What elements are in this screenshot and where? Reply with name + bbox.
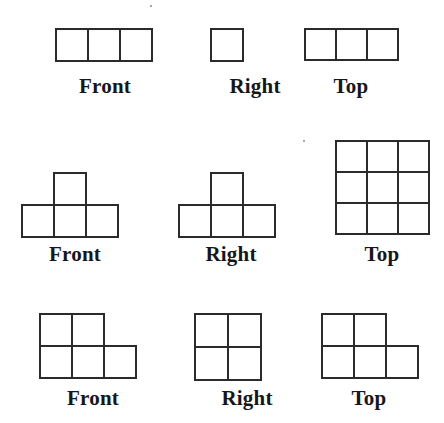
grid-cell [53,204,87,238]
grid-cell [21,204,55,238]
grid-cell [366,28,399,61]
grid-cell [103,345,137,379]
grid-cell [210,172,244,206]
view-label-right: Right [184,386,310,411]
grid-cell [194,346,229,381]
view-label-front: Front [40,74,170,99]
grid-cell [335,140,368,173]
grid-cell [119,28,153,62]
orthographic-views-figure: FrontRightTopFrontRightTopFrontRightTop [0,0,444,423]
grid-cell [366,171,399,204]
grid-cell [227,346,262,381]
scan-speck [150,5,152,7]
view-label-top: Top [312,386,426,411]
grid-cell [39,345,73,379]
grid-cell [242,204,276,238]
grid-cell [210,204,244,238]
view-label-right: Right [168,242,294,267]
scan-speck [303,140,305,142]
grid-cell [385,345,419,379]
grid-cell [194,313,229,348]
grid-cell [71,313,105,347]
grid-cell [353,345,387,379]
view-label-front: Front [28,386,158,411]
grid-cell [335,202,368,235]
grid-cell [39,313,73,347]
grid-cell [397,171,430,204]
grid-cell [321,345,355,379]
grid-cell [85,204,119,238]
grid-cell [210,28,244,62]
grid-cell [178,204,212,238]
grid-cell [366,202,399,235]
grid-cell [71,345,105,379]
grid-cell [397,202,430,235]
grid-cell [321,313,355,347]
grid-cell [366,140,399,173]
grid-cell [397,140,430,173]
grid-cell [87,28,121,62]
view-label-top: Top [325,242,439,267]
grid-cell [335,171,368,204]
view-label-front: Front [10,242,140,267]
view-label-top: Top [295,74,407,99]
grid-cell [335,28,368,61]
grid-cell [304,28,337,61]
grid-cell [55,28,89,62]
grid-cell [227,313,262,348]
grid-cell [353,313,387,347]
grid-cell [53,172,87,206]
